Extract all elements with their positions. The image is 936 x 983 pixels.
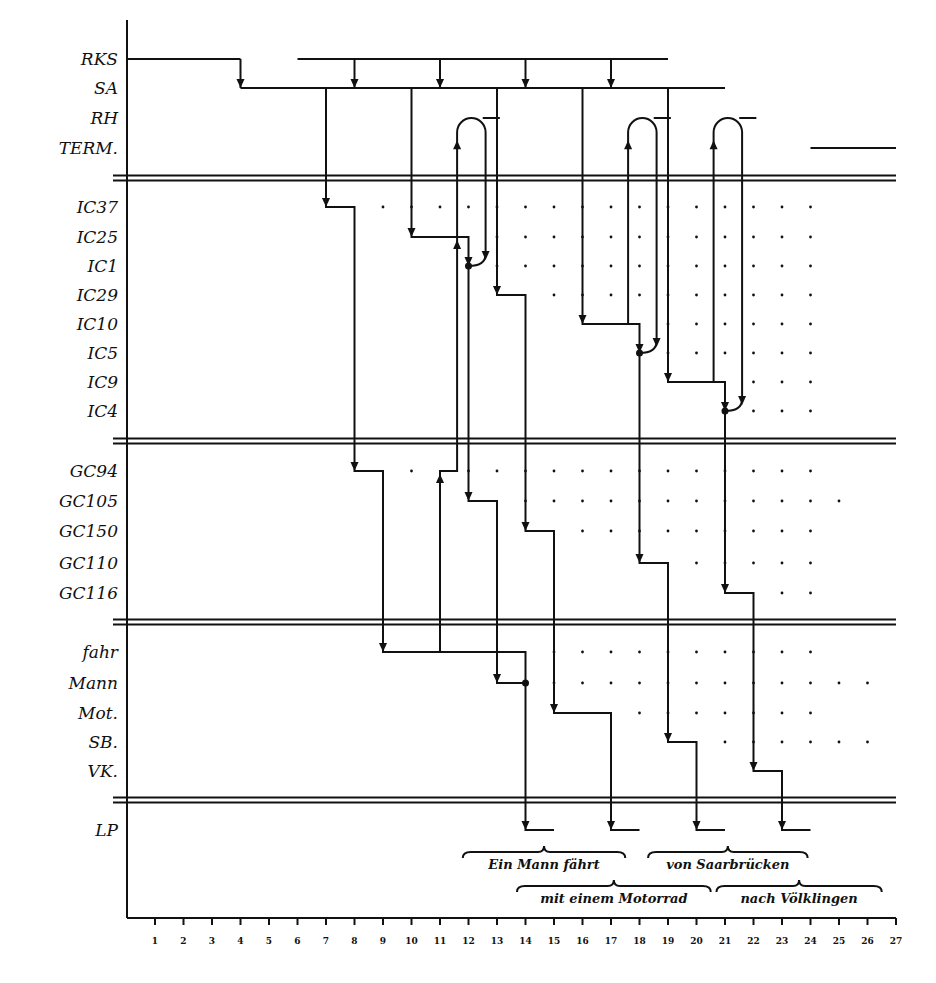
grid-dot — [809, 682, 812, 685]
grid-dot — [553, 265, 556, 268]
grid-dot — [553, 236, 556, 239]
grid-dot — [610, 682, 613, 685]
x-tick-label: 6 — [294, 936, 300, 946]
grid-dot — [781, 562, 784, 565]
grid-dot — [524, 236, 527, 239]
x-tick-label: 16 — [576, 936, 589, 946]
grid-dot — [695, 236, 698, 239]
grid-dot — [553, 682, 556, 685]
grid-dot — [638, 682, 641, 685]
grid-dot — [866, 682, 869, 685]
x-tick-label: 2 — [180, 936, 186, 946]
grid-dot — [809, 592, 812, 595]
x-tick-label: 9 — [380, 936, 386, 946]
row-label: SB. — [88, 732, 118, 752]
grid-dot — [781, 500, 784, 503]
row-label: IC5 — [86, 343, 118, 363]
grid-dot — [838, 682, 841, 685]
grid-dot — [724, 323, 727, 326]
grid-dot — [667, 206, 670, 209]
arrow-up-icon — [453, 240, 461, 249]
row-label: IC29 — [76, 285, 119, 305]
row-label: IC4 — [86, 401, 118, 421]
grid-dot — [724, 500, 727, 503]
grid-dot — [724, 562, 727, 565]
row-label: GC105 — [59, 491, 118, 511]
grid-dot — [695, 323, 698, 326]
grid-dot — [724, 265, 727, 268]
grid-dot — [638, 236, 641, 239]
grid-dot — [809, 741, 812, 744]
arrow-down-icon — [607, 821, 615, 830]
grid-dot — [610, 651, 613, 654]
arrow-down-icon — [653, 338, 661, 347]
grid-dot — [382, 206, 385, 209]
grid-dot — [610, 294, 613, 297]
grid-dot — [439, 206, 442, 209]
row-label: IC1 — [86, 256, 118, 276]
grid-dot — [667, 682, 670, 685]
x-tick-label: 22 — [747, 936, 760, 946]
arrow-down-icon — [351, 462, 359, 471]
grid-dot — [752, 741, 755, 744]
arrow-up-icon — [453, 140, 461, 149]
feedback-loop — [628, 118, 657, 353]
grid-dot — [581, 236, 584, 239]
grid-dot — [781, 265, 784, 268]
grid-dot — [752, 712, 755, 715]
grid-dot — [809, 323, 812, 326]
grid-dot — [724, 236, 727, 239]
grid-dot — [581, 530, 584, 533]
phrase-label: nach Völklingen — [740, 891, 857, 906]
grid-dot — [866, 741, 869, 744]
x-tick-label: 19 — [662, 936, 675, 946]
grid-dot — [752, 352, 755, 355]
grid-dot — [809, 651, 812, 654]
grid-dot — [467, 206, 470, 209]
grid-dot — [752, 381, 755, 384]
grid-dot — [781, 530, 784, 533]
grid-dot — [581, 470, 584, 473]
grid-dot — [610, 470, 613, 473]
grid-dot — [781, 592, 784, 595]
arrow-down-icon — [522, 522, 530, 531]
grid-dot — [781, 651, 784, 654]
arrow-down-icon — [408, 228, 416, 237]
arrow-down-icon — [693, 821, 701, 830]
x-tick-label: 12 — [462, 936, 475, 946]
grid-dot — [581, 265, 584, 268]
arrow-down-icon — [522, 821, 530, 830]
grid-dot — [781, 294, 784, 297]
grid-dot — [638, 294, 641, 297]
row-label: RH — [89, 108, 119, 128]
row-label: fahr — [80, 642, 118, 662]
grid-dot — [781, 410, 784, 413]
grid-dot — [809, 381, 812, 384]
grid-dot — [467, 470, 470, 473]
row-label: GC94 — [70, 461, 118, 481]
grid-dot — [610, 236, 613, 239]
grid-dot — [752, 682, 755, 685]
row-label: Mot. — [77, 703, 118, 723]
grid-dot — [667, 265, 670, 268]
signal-path — [583, 88, 726, 830]
grid-dot — [781, 323, 784, 326]
grid-dot — [724, 530, 727, 533]
diagram-canvas: 1234567891011121314151617181920212223242… — [0, 0, 936, 983]
grid-dot — [695, 530, 698, 533]
grid-dot — [695, 651, 698, 654]
grid-dot — [610, 265, 613, 268]
grid-dot — [752, 530, 755, 533]
grid-dot — [638, 206, 641, 209]
x-tick-label: 4 — [237, 936, 243, 946]
junction-dot — [465, 263, 472, 270]
grid-dot — [752, 562, 755, 565]
grid-dot — [781, 470, 784, 473]
arrow-up-icon — [710, 140, 718, 149]
x-tick-label: 21 — [719, 936, 732, 946]
grid-dot — [496, 470, 499, 473]
grid-dot — [667, 323, 670, 326]
grid-dot — [667, 236, 670, 239]
grid-dot — [781, 381, 784, 384]
grid-dot — [610, 206, 613, 209]
